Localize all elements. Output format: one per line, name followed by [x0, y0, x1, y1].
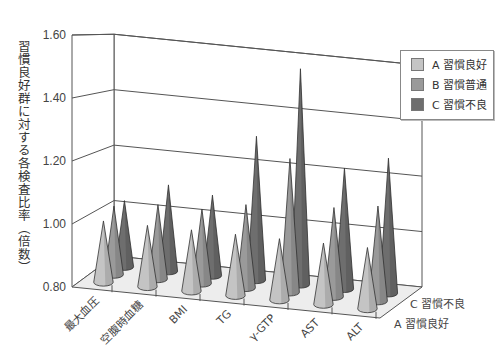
legend-item-a: A 習慣良好	[411, 54, 493, 74]
x-tick-label: TG	[213, 307, 234, 328]
x-tick-label: ALT	[344, 321, 367, 344]
y-tick-label: 1.40	[43, 91, 67, 105]
legend-item-b: B 習慣普通	[411, 74, 493, 94]
x-tick-label: γ-GTP	[246, 312, 278, 344]
legend-item-c: C 習慣不良	[411, 94, 493, 114]
x-tick-label: 最大血圧	[61, 293, 102, 334]
depth-label-back: C 習慣不良	[410, 297, 465, 311]
x-tick-label: 空腹時血糖	[97, 298, 146, 347]
x-tick-label: AST	[298, 316, 322, 340]
legend-swatch-c	[411, 98, 424, 111]
y-tick-label: 1.00	[43, 217, 67, 231]
y-tick-label: 0.80	[43, 280, 67, 294]
legend-label-c: C 習慣不良	[432, 96, 487, 112]
legend-label-b: B 習慣普通	[432, 76, 487, 92]
legend: A 習慣良好 B 習慣普通 C 習慣不良	[400, 50, 494, 120]
y-tick-label: 1.60	[43, 28, 67, 42]
y-tick-label: 1.20	[43, 154, 67, 168]
x-tick-label: BMI	[167, 303, 191, 327]
legend-swatch-b	[411, 78, 424, 91]
depth-label-front: A 習慣良好	[394, 317, 449, 331]
legend-swatch-a	[411, 58, 424, 71]
legend-label-a: A 習慣良好	[432, 56, 487, 72]
